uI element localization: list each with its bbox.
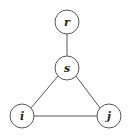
- node-i: i: [10, 104, 34, 128]
- node-s: s: [55, 56, 79, 80]
- edge-s-i: [31, 76, 58, 108]
- node-i-label: i: [20, 110, 24, 123]
- graph-diagram: r s i j: [0, 0, 133, 136]
- node-s-label: s: [64, 62, 70, 75]
- edge-s-j: [76, 76, 100, 108]
- node-r: r: [55, 10, 79, 34]
- node-j: j: [97, 104, 121, 128]
